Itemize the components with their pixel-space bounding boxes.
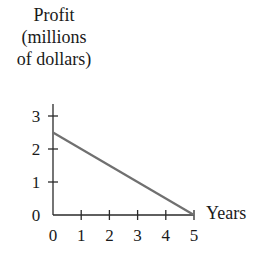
x-tick-label-5: 5: [190, 226, 199, 245]
x-axis-title: Years: [206, 203, 246, 224]
profit-line: [53, 133, 194, 216]
x-tick-label-0: 0: [49, 226, 58, 245]
x-tick-label-3: 3: [133, 226, 142, 245]
y-tick-label-2: 2: [32, 140, 41, 159]
y-tick-label-1: 1: [32, 173, 41, 192]
x-tick-label-4: 4: [162, 226, 171, 245]
y-tick-label-3: 3: [32, 107, 41, 126]
y-tick-label-0: 0: [32, 206, 41, 225]
x-tick-label-1: 1: [77, 226, 86, 245]
x-tick-label-2: 2: [105, 226, 114, 245]
